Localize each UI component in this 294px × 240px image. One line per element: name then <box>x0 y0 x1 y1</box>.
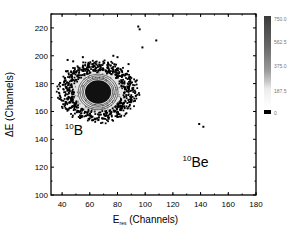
data-point <box>126 90 128 92</box>
data-point <box>135 95 137 97</box>
data-point <box>110 113 112 115</box>
data-point <box>82 65 84 67</box>
data-point <box>116 103 118 105</box>
data-point <box>115 70 117 72</box>
data-point <box>107 66 109 68</box>
data-point <box>92 119 94 121</box>
data-point <box>114 64 116 66</box>
data-point <box>111 119 113 121</box>
data-point <box>120 102 122 104</box>
data-point <box>106 114 108 116</box>
colorbar-tick-label: 187.5 <box>274 88 287 94</box>
data-point <box>84 64 86 66</box>
data-point <box>111 111 113 113</box>
data-point <box>79 74 81 76</box>
data-point <box>104 60 106 62</box>
data-point <box>93 66 95 68</box>
x-tick-label: 180 <box>249 200 263 209</box>
data-point <box>84 111 86 113</box>
outlier-point <box>82 56 84 58</box>
outlier-point <box>112 55 114 57</box>
data-point <box>118 96 119 97</box>
data-point <box>130 82 132 84</box>
data-point <box>115 115 117 117</box>
outlier-point <box>72 60 74 62</box>
data-point <box>105 113 107 115</box>
data-point <box>74 79 76 81</box>
data-point <box>73 93 75 95</box>
data-point <box>128 74 130 76</box>
data-point <box>116 108 118 110</box>
data-point <box>69 76 71 78</box>
data-point <box>100 64 102 66</box>
data-point <box>72 89 74 91</box>
data-point <box>128 90 130 92</box>
colorbar-tick-label: 0 <box>274 110 277 116</box>
data-point <box>80 77 82 79</box>
data-point <box>127 70 129 72</box>
data-point <box>82 61 84 63</box>
y-tick-label: 220 <box>35 24 49 33</box>
data-point <box>132 84 134 86</box>
data-point <box>99 111 101 113</box>
data-point <box>70 113 72 115</box>
data-point <box>58 84 60 86</box>
data-point <box>95 119 97 121</box>
data-point <box>127 99 129 101</box>
x-tick-label: 120 <box>166 200 180 209</box>
data-point <box>129 79 131 81</box>
data-point <box>111 62 113 64</box>
data-point <box>71 85 73 87</box>
data-point <box>84 74 86 76</box>
data-point <box>78 69 80 71</box>
y-tick-label: 180 <box>35 80 49 89</box>
data-point <box>130 108 132 110</box>
y-tick-label: 160 <box>35 107 49 116</box>
data-point <box>122 67 124 69</box>
data-point <box>124 100 126 102</box>
data-point <box>125 96 127 98</box>
data-point <box>127 107 129 109</box>
data-point <box>96 71 98 73</box>
data-point <box>71 75 73 77</box>
data-point <box>100 114 102 116</box>
data-point <box>116 68 118 70</box>
data-point <box>126 112 128 114</box>
data-point <box>94 110 95 111</box>
data-point <box>87 114 89 116</box>
data-point <box>106 71 108 73</box>
data-point <box>202 126 204 128</box>
data-point <box>127 78 129 80</box>
data-point <box>89 61 91 63</box>
data-point <box>113 109 115 111</box>
data-point <box>128 76 130 78</box>
data-point <box>116 76 118 78</box>
data-point <box>126 105 128 107</box>
data-point <box>71 92 73 94</box>
data-point <box>118 83 120 85</box>
data-point <box>65 101 67 103</box>
y-axis-title: ΔE (Channels) <box>4 72 15 137</box>
data-point <box>88 119 90 121</box>
data-point <box>91 116 93 118</box>
data-point <box>133 105 135 107</box>
data-point <box>130 77 132 79</box>
data-point <box>90 111 92 113</box>
data-point <box>102 118 104 120</box>
data-point <box>88 110 90 112</box>
data-point <box>130 94 132 96</box>
data-point <box>75 102 77 104</box>
data-point <box>68 91 70 93</box>
data-point <box>87 112 89 114</box>
data-point <box>64 78 66 80</box>
data-point <box>64 84 66 86</box>
data-point <box>126 85 128 87</box>
outlier-point <box>116 56 118 58</box>
data-point <box>100 69 102 71</box>
data-point <box>85 62 87 64</box>
data-point <box>126 102 128 104</box>
data-point <box>77 78 79 80</box>
x-tick-label: 140 <box>194 200 208 209</box>
data-point <box>102 122 104 124</box>
data-point <box>122 87 123 88</box>
